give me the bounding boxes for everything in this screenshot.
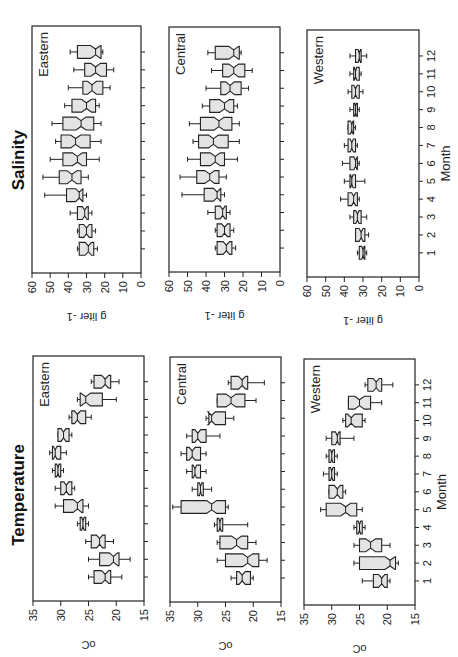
month-tick-label: 7 bbox=[421, 471, 433, 477]
value-tick-label: 60 bbox=[26, 281, 38, 293]
month-tick-label: 8 bbox=[425, 124, 437, 130]
value-tick-label: 30 bbox=[192, 610, 204, 622]
value-tick-label: 35 bbox=[298, 613, 310, 625]
value-tick-label: 30 bbox=[326, 613, 338, 625]
value-tick-label: 50 bbox=[320, 285, 332, 297]
month-tick-label: 9 bbox=[421, 435, 433, 441]
value-tick-label: 30 bbox=[81, 281, 93, 293]
panel-label: Eastern bbox=[36, 32, 51, 77]
value-tick-label: 15 bbox=[409, 613, 421, 625]
value-tick-label: 20 bbox=[237, 280, 249, 292]
value-tick-label: 0 bbox=[413, 285, 425, 291]
value-tick-label: 10 bbox=[394, 285, 406, 297]
value-tick-label: 40 bbox=[62, 281, 74, 293]
month-tick-label: 9 bbox=[425, 107, 437, 113]
value-tick-label: 60 bbox=[301, 285, 313, 297]
value-axis-title: g liter -1 bbox=[343, 315, 383, 327]
value-tick-label: 25 bbox=[354, 613, 366, 625]
value-tick-label: 10 bbox=[117, 281, 129, 293]
month-axis-title: Month bbox=[434, 474, 449, 510]
figure: 0102030405060Easterng liter -10102030405… bbox=[0, 0, 458, 657]
value-tick-label: 20 bbox=[247, 610, 259, 622]
value-tick-label: 50 bbox=[182, 280, 194, 292]
panel-label: Central bbox=[173, 33, 188, 75]
month-tick-label: 5 bbox=[425, 178, 437, 184]
value-tick-label: 35 bbox=[164, 610, 176, 622]
value-tick-label: 30 bbox=[357, 285, 369, 297]
month-tick-label: 8 bbox=[421, 453, 433, 459]
month-tick-label: 7 bbox=[425, 142, 437, 148]
month-tick-label: 3 bbox=[421, 542, 433, 548]
month-tick-label: 3 bbox=[425, 214, 437, 220]
chart-layer: 0102030405060Easterng liter -10102030405… bbox=[9, 26, 453, 655]
temperature-title: Temperature bbox=[9, 444, 28, 546]
panel-label: Western bbox=[308, 365, 323, 413]
month-tick-label: 1 bbox=[425, 250, 437, 256]
month-tick-label: 5 bbox=[421, 507, 433, 513]
value-axis-title: g liter -1 bbox=[67, 311, 107, 323]
box-month-10 bbox=[343, 414, 365, 427]
panel-salinity-central: 0102030405060Centralg liter -1 bbox=[163, 27, 286, 322]
month-tick-label: 4 bbox=[421, 524, 433, 530]
value-tick-label: 50 bbox=[44, 281, 56, 293]
value-tick-label: 35 bbox=[27, 609, 39, 621]
month-tick-label: 6 bbox=[421, 489, 433, 495]
month-tick-label: 12 bbox=[425, 50, 437, 62]
value-tick-label: 15 bbox=[138, 609, 150, 621]
value-axis-title: g liter -1 bbox=[205, 310, 245, 322]
month-tick-label: 12 bbox=[421, 379, 433, 391]
value-tick-label: 60 bbox=[163, 280, 175, 292]
value-tick-label: 20 bbox=[381, 613, 393, 625]
value-tick-label: 25 bbox=[83, 609, 95, 621]
panel-temperature-central: 1520253035CentraloC bbox=[164, 357, 287, 652]
panel-label: Eastern bbox=[37, 362, 52, 407]
month-tick-label: 11 bbox=[425, 68, 437, 79]
box-month-1 bbox=[357, 246, 366, 259]
value-tick-label: 10 bbox=[256, 280, 268, 292]
salinity-title: Salinity bbox=[9, 129, 28, 190]
value-tick-label: 15 bbox=[275, 610, 287, 622]
panel-label: Central bbox=[174, 363, 189, 405]
panel-salinity-western: 0102030405060123456789101112MonthWestern… bbox=[301, 30, 453, 327]
panel-temperature-eastern: 1520253035EasternoC bbox=[27, 356, 150, 651]
value-tick-label: 40 bbox=[200, 280, 212, 292]
panel-label: Western bbox=[311, 36, 326, 84]
value-tick-label: 20 bbox=[376, 285, 388, 297]
value-tick-label: 0 bbox=[274, 280, 286, 286]
value-tick-label: 20 bbox=[99, 281, 111, 293]
box-month-5 bbox=[321, 503, 363, 516]
month-tick-label: 10 bbox=[425, 86, 437, 98]
value-tick-label: 30 bbox=[219, 280, 231, 292]
month-tick-label: 1 bbox=[421, 578, 433, 584]
panel-temperature-western: 1520253035123456789101112MonthWesternoC bbox=[298, 359, 449, 655]
box-month-5 bbox=[173, 501, 229, 514]
value-tick-label: 25 bbox=[220, 610, 232, 622]
month-tick-label: 2 bbox=[425, 232, 437, 238]
panel-salinity-eastern: 0102030405060Easterng liter -1 bbox=[26, 26, 147, 323]
box-month-2 bbox=[354, 557, 398, 570]
month-tick-label: 11 bbox=[421, 397, 433, 408]
value-axis-title: oC bbox=[352, 643, 366, 655]
month-tick-label: 6 bbox=[425, 160, 437, 166]
month-tick-label: 2 bbox=[421, 560, 433, 566]
value-tick-label: 0 bbox=[135, 281, 147, 287]
value-tick-label: 30 bbox=[55, 609, 67, 621]
value-tick-label: 40 bbox=[338, 285, 350, 297]
month-tick-label: 10 bbox=[421, 414, 433, 426]
value-tick-label: 20 bbox=[110, 609, 122, 621]
value-axis-title: oC bbox=[81, 639, 95, 651]
month-tick-label: 4 bbox=[425, 196, 437, 202]
value-axis-title: oC bbox=[218, 640, 232, 652]
month-axis-title: Month bbox=[438, 145, 453, 181]
